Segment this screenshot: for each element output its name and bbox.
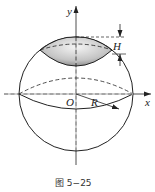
figure-caption: 图 5−25 [55, 178, 92, 188]
origin-label: O [66, 96, 74, 108]
sphere-diagram: y x O R H 图 5−25 [0, 0, 155, 192]
y-axis-label: y [66, 5, 72, 17]
height-label: H [112, 40, 122, 52]
x-axis-label: x [144, 96, 150, 108]
radius-label: R [90, 96, 98, 108]
